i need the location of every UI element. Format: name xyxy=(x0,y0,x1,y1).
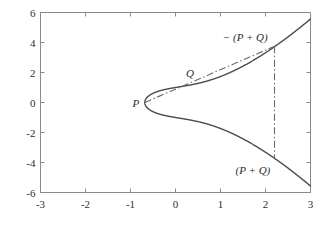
chord-line-pq xyxy=(145,46,275,102)
x-axis-tick-label: -2 xyxy=(81,199,90,210)
y-axis-tick-label: -6 xyxy=(26,187,35,198)
x-axis-tick-label: -3 xyxy=(36,199,45,210)
y-axis-tick-label: 0 xyxy=(30,97,36,108)
x-axis-tick-label: 3 xyxy=(308,199,314,210)
x-axis-tick-label: -1 xyxy=(126,199,135,210)
y-axis-tick-label: 4 xyxy=(30,37,36,48)
elliptic-curve-lower-branch xyxy=(145,103,311,186)
y-axis-tick-label: 2 xyxy=(30,67,36,78)
annotation-label-P: P xyxy=(133,97,140,108)
x-axis-tick-label: 0 xyxy=(173,199,179,210)
annotation-label-Q: Q xyxy=(186,67,194,78)
y-axis-tick-label: -4 xyxy=(26,157,35,168)
x-axis-tick-label: 2 xyxy=(263,199,269,210)
plot-canvas xyxy=(0,0,329,227)
annotation-label-neg_sum: − (P + Q) xyxy=(223,32,268,43)
y-axis-tick-label: 6 xyxy=(30,7,36,18)
y-axis-tick-label: -2 xyxy=(26,127,35,138)
elliptic-curve-figure: -6-4-20246-3-2-10123PQ− (P + Q)(P + Q) xyxy=(0,0,329,227)
annotation-label-sum: (P + Q) xyxy=(236,165,271,176)
x-axis-tick-label: 1 xyxy=(218,199,224,210)
